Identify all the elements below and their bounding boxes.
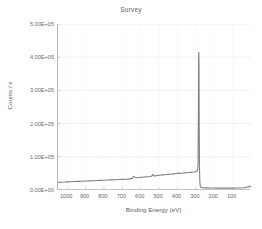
x-tick-label: 500 — [153, 193, 162, 199]
y-tick-label: 3.00E+05 — [0, 87, 54, 93]
xps-survey-chart: Survey Counts / s Binding Energy (eV) 0.… — [0, 0, 262, 229]
spectrum-line-0 — [58, 52, 251, 188]
x-tick-label: 700 — [117, 193, 126, 199]
y-tick-label: 2.00E+05 — [0, 121, 54, 127]
x-tick-label: 200 — [209, 193, 218, 199]
chart-title: Survey — [0, 6, 262, 13]
y-tick-label: 5.00E+05 — [0, 21, 54, 27]
y-tick-label: 1.00E+05 — [0, 154, 54, 160]
x-tick-label: 100 — [227, 193, 236, 199]
x-tick-label: 800 — [98, 193, 107, 199]
y-tick-label: 0.00E+00 — [0, 187, 54, 193]
x-tick-label: 900 — [80, 193, 89, 199]
x-tick-label: 300 — [190, 193, 199, 199]
plot-area — [57, 24, 250, 190]
spectrum-plot — [58, 24, 251, 190]
data-series-group — [58, 52, 251, 188]
gridlines — [58, 24, 251, 190]
x-tick-label: 1000 — [60, 193, 72, 199]
axis-tickmarks — [58, 24, 233, 190]
y-tick-label: 4.00E+05 — [0, 54, 54, 60]
x-tick-label: 400 — [172, 193, 181, 199]
x-axis-title: Binding Energy (eV) — [57, 206, 250, 213]
x-tick-label: 600 — [135, 193, 144, 199]
